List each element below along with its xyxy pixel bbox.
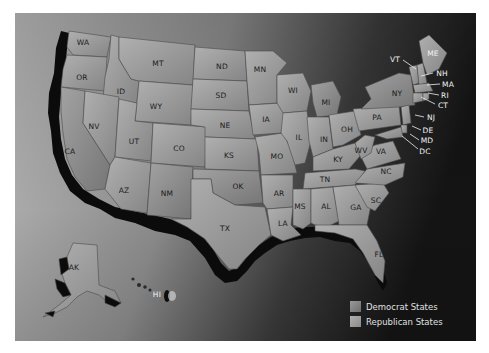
state-label-va: VA bbox=[376, 147, 386, 156]
state-label-wa: WA bbox=[77, 38, 90, 47]
state-label-co: CO bbox=[173, 144, 185, 153]
democrat-swatch bbox=[350, 301, 361, 312]
state-label-nc: NC bbox=[380, 167, 391, 176]
state-label-il: IL bbox=[296, 133, 303, 142]
state-label-la: LA bbox=[278, 219, 288, 228]
state-label-pa: PA bbox=[372, 113, 382, 122]
state-label-ri: RI bbox=[441, 91, 449, 100]
state-label-ct: CT bbox=[438, 101, 448, 110]
republican-swatch bbox=[350, 316, 361, 327]
state-label-nh: NH bbox=[436, 69, 448, 78]
state-label-mi: MI bbox=[321, 98, 330, 107]
state-label-tx: TX bbox=[220, 224, 230, 233]
legend-label-republican: Republican States bbox=[366, 317, 443, 327]
state-label-me: ME bbox=[427, 49, 439, 58]
state-label-sd: SD bbox=[216, 91, 227, 100]
state-label-ak: AK bbox=[69, 263, 79, 272]
legend: Democrat States Republican States bbox=[350, 299, 443, 329]
legend-label-democrat: Democrat States bbox=[366, 302, 438, 312]
state-label-wi: WI bbox=[288, 86, 298, 95]
state-label-ia: IA bbox=[262, 115, 270, 124]
state-label-dc: DC bbox=[419, 147, 430, 156]
state-label-md: MD bbox=[421, 136, 434, 145]
state-label-nj: NJ bbox=[427, 113, 435, 122]
state-label-nd: ND bbox=[216, 62, 228, 71]
state-label-ma: MA bbox=[442, 80, 454, 89]
state-label-sc: SC bbox=[371, 196, 381, 205]
state-label-ga: GA bbox=[350, 203, 361, 212]
state-label-nv: NV bbox=[88, 122, 99, 131]
state-label-mt: MT bbox=[152, 59, 163, 68]
state-label-ok: OK bbox=[232, 182, 243, 191]
state-label-tn: TN bbox=[320, 175, 331, 184]
state-label-de: DE bbox=[423, 126, 434, 135]
state-WY bbox=[135, 81, 193, 125]
state-label-fl: FL bbox=[375, 250, 384, 259]
state-label-ms: MS bbox=[294, 202, 306, 211]
state-label-id: ID bbox=[117, 87, 125, 96]
state-label-nm: NM bbox=[161, 189, 173, 198]
state-label-ca: CA bbox=[65, 147, 76, 156]
state-label-az: AZ bbox=[119, 186, 130, 195]
state-label-in: IN bbox=[320, 135, 328, 144]
state-label-ky: KY bbox=[333, 155, 343, 164]
state-label-wv: WV bbox=[355, 146, 368, 155]
state-label-ny: NY bbox=[392, 89, 403, 98]
state-label-ut: UT bbox=[129, 137, 139, 146]
state-label-oh: OH bbox=[341, 125, 353, 134]
state-label-or: OR bbox=[76, 73, 88, 82]
state-label-hi: HI bbox=[153, 290, 161, 299]
us-map bbox=[15, 13, 476, 341]
map-frame: WAORIDMTWYNVUTCOCAAZNMNDSDNEKSOKTXMNIAMO… bbox=[15, 13, 476, 341]
state-label-al: AL bbox=[321, 202, 331, 211]
state-NJ bbox=[401, 105, 411, 125]
legend-item-democrat: Democrat States bbox=[350, 299, 443, 314]
state-label-mn: MN bbox=[254, 65, 266, 74]
state-CT bbox=[413, 93, 423, 103]
state-label-vt: VT bbox=[390, 55, 400, 64]
state-label-mo: MO bbox=[271, 152, 284, 161]
state-label-ar: AR bbox=[274, 189, 285, 198]
legend-item-republican: Republican States bbox=[350, 314, 443, 329]
state-label-ne: NE bbox=[220, 121, 231, 130]
state-label-wy: WY bbox=[150, 102, 162, 111]
state-label-ks: KS bbox=[224, 151, 234, 160]
